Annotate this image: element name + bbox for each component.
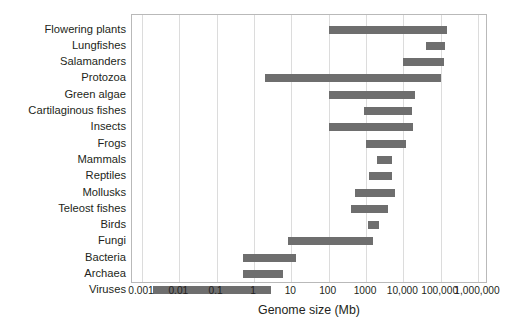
category-label: Teleost fishes [0, 202, 126, 214]
bar [265, 74, 440, 82]
category-label: Salamanders [0, 55, 126, 67]
bar [243, 270, 283, 278]
x-axis-tick-labels: 0.0010.010.1110100100010,000100,0001,000… [131, 285, 487, 299]
category-label: Fungi [0, 234, 126, 246]
category-label: Archaea [0, 267, 126, 279]
plot-area [131, 14, 487, 283]
x-tick-label: 1000 [354, 285, 377, 296]
category-label: Viruses [0, 283, 126, 295]
x-tick-label: 0.1 [209, 285, 223, 296]
bar [364, 107, 412, 115]
x-tick-label: 10 [285, 285, 296, 296]
x-tick-label: 10,000 [387, 285, 418, 296]
bar [368, 221, 379, 229]
x-tick-label: 100,000 [421, 285, 458, 296]
bars [132, 15, 486, 282]
bar [369, 172, 392, 180]
category-label: Green algae [0, 88, 126, 100]
x-tick-label: 0.001 [128, 285, 154, 296]
x-tick-label: 1 [250, 285, 256, 296]
bar [403, 58, 443, 66]
category-label: Flowering plants [0, 23, 126, 35]
category-label: Protozoa [0, 71, 126, 83]
bar [243, 254, 296, 262]
bar [288, 237, 373, 245]
category-label: Frogs [0, 137, 126, 149]
bar [329, 91, 415, 99]
bar [355, 189, 395, 197]
category-label: Reptiles [0, 169, 126, 181]
bar [377, 156, 392, 164]
bar [329, 123, 413, 131]
x-tick-label: 100 [319, 285, 336, 296]
bar [366, 140, 406, 148]
x-axis-title: Genome size (Mb) [131, 303, 487, 317]
category-label: Cartilaginous fishes [0, 104, 126, 116]
category-label: Lungfishes [0, 39, 126, 51]
bar [329, 26, 448, 34]
bar [426, 42, 445, 50]
category-label: Mollusks [0, 186, 126, 198]
bar [351, 205, 388, 213]
category-label: Bacteria [0, 251, 126, 263]
x-tick-label: 0.01 [168, 285, 188, 296]
genome-size-chart: Flowering plantsLungfishesSalamandersPro… [0, 0, 526, 334]
category-label: Birds [0, 218, 126, 230]
x-tick-label: 1,000,000 [454, 285, 499, 296]
category-label: Mammals [0, 153, 126, 165]
category-label: Insects [0, 120, 126, 132]
category-axis-labels: Flowering plantsLungfishesSalamandersPro… [0, 14, 126, 283]
